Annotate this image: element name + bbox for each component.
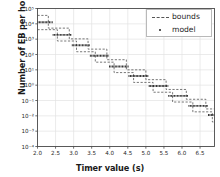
x-tick-labels: 2.02.53.03.54.04.55.05.56.06.5 bbox=[33, 150, 205, 156]
x-axis-label: Timer value (s) bbox=[0, 163, 220, 173]
x-tick-label: 6.5 bbox=[196, 150, 205, 156]
x-tick-label: 5.5 bbox=[159, 150, 168, 156]
y-tick-label: 10⁻⁴ bbox=[22, 144, 35, 150]
legend-item-model: model bbox=[150, 24, 210, 37]
x-tick-label: 4.0 bbox=[105, 150, 114, 156]
legend-item-bounds: bounds bbox=[150, 11, 210, 24]
legend-label-model: model bbox=[172, 25, 196, 34]
dot-marker-icon bbox=[159, 29, 161, 31]
y-axis-label: Number of EB per hour bbox=[17, 0, 27, 103]
legend-label-bounds: bounds bbox=[172, 12, 200, 21]
y-tick-label: 10⁻² bbox=[22, 113, 34, 119]
x-tick-label: 6.0 bbox=[178, 150, 187, 156]
x-tick-label: 2.0 bbox=[33, 150, 42, 156]
figure: 2.02.53.03.54.04.55.05.56.06.5 10⁵10⁴10³… bbox=[0, 0, 220, 177]
x-tick-label: 5.0 bbox=[141, 150, 150, 156]
x-tick-label: 4.5 bbox=[123, 150, 132, 156]
x-tick-label: 3.5 bbox=[87, 150, 96, 156]
x-tick-label: 2.5 bbox=[51, 150, 60, 156]
y-tick-label: 10⁻³ bbox=[22, 128, 34, 134]
x-tick-label: 3.0 bbox=[69, 150, 78, 156]
dashed-line-icon bbox=[152, 17, 169, 18]
legend: bounds model bbox=[146, 9, 212, 37]
